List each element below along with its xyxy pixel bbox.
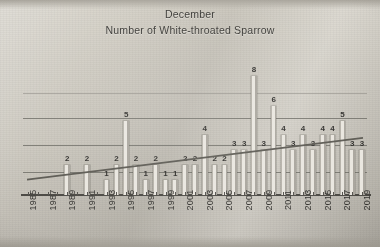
photo-vignette xyxy=(0,0,380,247)
